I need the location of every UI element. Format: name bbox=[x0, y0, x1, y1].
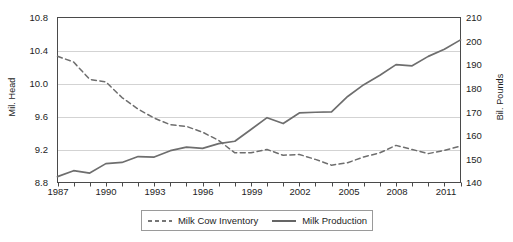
legend-item-milk-cow-inventory: Milk Cow Inventory bbox=[147, 215, 258, 226]
plot-area bbox=[0, 0, 513, 242]
legend-label-milk-cow-inventory: Milk Cow Inventory bbox=[178, 215, 258, 226]
plot-frame bbox=[58, 18, 461, 183]
legend-swatch-solid-icon bbox=[271, 217, 297, 225]
legend-item-milk-production: Milk Production bbox=[271, 215, 367, 226]
chart-legend: Milk Cow Inventory Milk Production bbox=[141, 210, 373, 231]
legend-swatch-dashed-icon bbox=[147, 217, 173, 225]
series-line-milk-production bbox=[58, 40, 461, 177]
legend-label-milk-production: Milk Production bbox=[302, 215, 367, 226]
milk-chart-figure: Mil. Head Bil. Pounds 10.8 10.4 10.0 9.6… bbox=[0, 0, 513, 242]
axis-ticks bbox=[59, 183, 462, 187]
series-line-milk-cow-inventory bbox=[58, 56, 461, 165]
gridlines bbox=[58, 52, 461, 151]
